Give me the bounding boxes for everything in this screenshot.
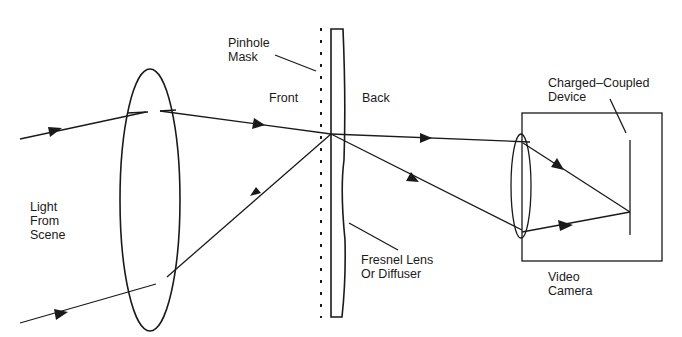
arrow-icon xyxy=(54,309,68,320)
arrow-icon xyxy=(48,127,62,137)
fresnel-leader xyxy=(349,223,398,250)
arrow-icon xyxy=(420,133,432,143)
incoming-ray-upper xyxy=(20,112,146,139)
ray-camera-to-ccd-upper xyxy=(523,143,630,212)
fresnel-lens-plate xyxy=(331,29,345,317)
arrow-icon xyxy=(551,158,564,170)
ccd-leader xyxy=(610,99,626,133)
label-video-camera: Video Camera xyxy=(548,270,592,298)
label-pinhole-mask: Pinhole Mask xyxy=(228,36,270,64)
ray-pinhole-to-camera-lower xyxy=(331,134,522,230)
optical-diagram: Pinhole Mask Front Back Charged–Coupled … xyxy=(0,0,682,337)
label-light-from-scene: Light From Scene xyxy=(30,200,65,242)
label-front: Front xyxy=(269,91,298,105)
ray-lens-to-pinhole-upper xyxy=(160,111,331,134)
arrow-icon xyxy=(558,220,573,231)
label-ccd: Charged–Coupled Device xyxy=(548,76,649,104)
arrow-icon xyxy=(250,187,261,196)
label-fresnel-lens: Fresnel Lens Or Diffuser xyxy=(361,253,433,281)
pinhole-mask-leader xyxy=(275,55,316,71)
arrow-icon xyxy=(252,118,265,129)
label-back: Back xyxy=(362,91,390,105)
camera-lens xyxy=(511,134,531,238)
ray-lens-to-pinhole-lower xyxy=(167,134,331,277)
ray-camera-to-ccd-lower xyxy=(522,212,630,232)
